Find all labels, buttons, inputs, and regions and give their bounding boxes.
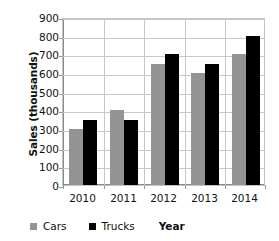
x-axis-tickmark — [144, 185, 145, 189]
x-axis-tick-2014: 2014 — [224, 192, 265, 204]
legend-item-trucks: Trucks — [89, 221, 135, 232]
x-axis-tick-2013: 2013 — [184, 192, 225, 204]
y-axis-tickmark — [59, 75, 63, 76]
gridline-vertical — [225, 19, 226, 185]
x-axis-tick-2011: 2011 — [103, 192, 144, 204]
y-axis-tickmark — [59, 168, 63, 169]
y-axis-tick-700: 700 — [25, 50, 59, 61]
y-axis-tickmark — [59, 19, 63, 20]
y-axis-tickmark — [59, 56, 63, 57]
x-axis-tick-2012: 2012 — [143, 192, 184, 204]
y-axis-tickmark — [59, 131, 63, 132]
y-axis-tick-200: 200 — [25, 144, 59, 155]
y-axis-tick-labels: 9008007006005004003002001000 — [25, 18, 59, 186]
bar-trucks-2014 — [246, 36, 260, 185]
y-axis-tickmark — [59, 150, 63, 151]
bar-trucks-2013 — [205, 64, 219, 185]
y-axis-tick-0: 0 — [25, 181, 59, 192]
x-axis-tick-2010: 2010 — [62, 192, 103, 204]
gridline-horizontal — [63, 38, 264, 39]
bar-trucks-2010 — [83, 120, 97, 185]
x-axis-tickmark — [265, 185, 266, 189]
gridline-horizontal — [63, 19, 264, 20]
legend-label-cars: Cars — [43, 221, 67, 232]
plot-area — [62, 18, 265, 186]
x-axis-tick-labels: 20102011201220132014 — [62, 192, 265, 208]
x-axis-tickmark — [185, 185, 186, 189]
y-axis-tickmark — [59, 94, 63, 95]
gridline-vertical — [144, 19, 145, 185]
bar-cars-2013 — [191, 73, 205, 185]
bar-trucks-2012 — [165, 54, 179, 185]
y-axis-tick-900: 900 — [25, 13, 59, 24]
bar-cars-2012 — [151, 64, 165, 185]
x-axis-title: Year — [159, 220, 185, 232]
y-axis-tick-800: 800 — [25, 32, 59, 43]
legend-swatch-trucks — [89, 223, 96, 230]
x-axis-tickmark — [63, 185, 64, 189]
chart-legend: Cars Trucks Year — [30, 218, 185, 234]
x-axis-tickmark — [225, 185, 226, 189]
bar-chart: Sales (thousands) 9008007006005004003002… — [0, 0, 279, 241]
y-axis-tick-300: 300 — [25, 125, 59, 136]
gridline-vertical — [104, 19, 105, 185]
legend-swatch-cars — [30, 223, 37, 230]
y-axis-tick-500: 500 — [25, 88, 59, 99]
gridline-vertical — [185, 19, 186, 185]
legend-label-trucks: Trucks — [102, 221, 135, 232]
y-axis-tick-400: 400 — [25, 106, 59, 117]
y-axis-tick-100: 100 — [25, 162, 59, 173]
bar-cars-2011 — [110, 110, 124, 185]
y-axis-tickmark — [59, 38, 63, 39]
y-axis-tickmark — [59, 112, 63, 113]
bar-cars-2010 — [69, 129, 83, 185]
legend-item-cars: Cars — [30, 221, 67, 232]
bar-trucks-2011 — [124, 120, 138, 185]
y-axis-tick-600: 600 — [25, 69, 59, 80]
y-axis-tickmark — [59, 187, 63, 188]
y-axis-line — [63, 19, 64, 185]
bar-cars-2014 — [232, 54, 246, 185]
x-axis-tickmark — [104, 185, 105, 189]
